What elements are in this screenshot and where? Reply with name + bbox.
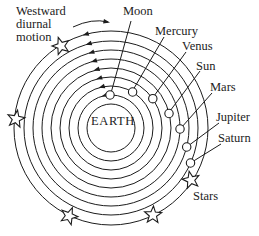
westward-arrowhead-icon — [93, 67, 100, 73]
westward-arrowhead-icon — [88, 49, 95, 55]
diurnal-motion-arrow — [73, 19, 110, 27]
geocentric-model-svg: Westward diurnal motion EARTH Moon Mercu… — [0, 0, 259, 236]
star-markers — [6, 35, 201, 226]
sun-leader-line — [170, 71, 200, 111]
moon-orbit-circle — [78, 95, 144, 161]
annotation-line-3: motion — [16, 30, 52, 44]
mars-marker — [176, 125, 184, 133]
diurnal-motion-arrow-arc — [73, 21, 108, 27]
venus-leader-line — [154, 52, 186, 96]
westward-arrowhead-icon — [90, 58, 97, 64]
geocentric-model-figure: Westward diurnal motion EARTH Moon Mercu… — [0, 0, 259, 236]
jupiter-leader-line — [188, 123, 219, 146]
mercury-marker — [128, 88, 136, 96]
jupiter-orbit-circle — [33, 50, 189, 206]
star-icon — [144, 206, 162, 223]
moon-marker — [106, 91, 114, 99]
westward-arrowhead-icon — [95, 75, 102, 81]
sun-label: Sun — [196, 59, 216, 73]
mercury-label: Mercury — [155, 24, 199, 38]
annotation-line-1: Westward — [16, 4, 66, 18]
star-icon — [6, 109, 26, 128]
venus-marker — [149, 95, 157, 103]
stars-label: Stars — [193, 189, 218, 203]
mars-orbit-circle — [42, 59, 180, 197]
star-icon — [181, 169, 201, 188]
saturn-marker — [186, 159, 194, 167]
earth-circle — [87, 104, 135, 152]
mars-label: Mars — [210, 80, 236, 94]
diurnal-motion-arrowhead-icon — [103, 19, 110, 25]
westward-arrowhead-icon — [82, 31, 89, 37]
annotation-line-2: diurnal — [16, 17, 52, 31]
saturn-orbit-circle — [24, 41, 198, 215]
mars-leader-line — [181, 93, 212, 128]
moon-label: Moon — [123, 4, 154, 18]
saturn-label: Saturn — [218, 131, 251, 145]
sun-marker — [165, 109, 173, 117]
westward-arrowhead-icon — [98, 84, 105, 90]
venus-label: Venus — [182, 39, 213, 53]
jupiter-label: Jupiter — [216, 110, 251, 124]
westward-arrowhead-icon — [85, 41, 92, 47]
earth-label: EARTH — [91, 114, 135, 128]
jupiter-marker — [183, 143, 191, 151]
